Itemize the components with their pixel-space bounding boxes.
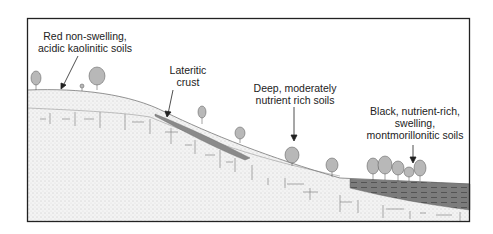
tree-icon	[414, 160, 426, 181]
tree-icon	[198, 106, 206, 124]
label-lateritic-crust: Lateritic crust	[158, 64, 218, 88]
label-black-soils: Black, nutrient-rich, swelling, montmori…	[365, 105, 465, 141]
label-red-soils: Red non-swelling, acidic kaolinitic soil…	[35, 30, 135, 54]
tree-icon	[404, 167, 414, 181]
tree-icon	[235, 127, 245, 143]
tree-icon	[392, 161, 404, 181]
tree-icon	[31, 71, 41, 90]
tree-icon	[367, 158, 379, 180]
tree-icon	[378, 156, 392, 180]
tree-icon	[80, 84, 84, 91]
label-deep-soils: Deep, moderately nutrient rich soils	[250, 82, 340, 106]
tree-icon	[89, 67, 105, 90]
